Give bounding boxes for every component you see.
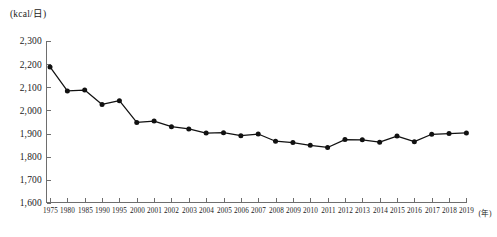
x-axis-tick-label: 2019 [459, 207, 474, 215]
x-axis-tick-label: 1990 [95, 207, 110, 215]
data-point-marker [65, 88, 70, 93]
data-point-marker [204, 131, 209, 136]
x-axis-tick-label: 2009 [286, 207, 301, 215]
x-axis-tick-label: 1980 [60, 207, 75, 215]
x-axis-tick-label: 2004 [199, 207, 214, 215]
x-axis-tick-label: 2015 [390, 207, 405, 215]
x-axis-tick-label: 2011 [321, 207, 336, 215]
data-point-marker [429, 132, 434, 137]
data-point-marker [100, 102, 105, 107]
data-point-marker [377, 140, 382, 145]
x-axis-tick-label: 2001 [147, 207, 162, 215]
x-axis-tick-label: 2013 [355, 207, 370, 215]
data-point-marker [186, 126, 191, 131]
x-axis-tick-label: 2002 [164, 207, 179, 215]
data-point-marker [360, 137, 365, 142]
data-point-marker [325, 145, 330, 150]
y-axis-tick-label: 1,800 [20, 152, 42, 162]
data-point-marker [152, 119, 157, 124]
x-axis-tick-label: 2008 [269, 207, 284, 215]
x-axis-tick-label: 1995 [112, 207, 127, 215]
data-point-marker [412, 139, 417, 144]
x-axis-tick-label: 2006 [234, 207, 249, 215]
y-axis-tick-label: 2,100 [20, 83, 42, 93]
x-axis-tick-label: 2012 [338, 207, 353, 215]
data-point-marker [273, 139, 278, 144]
x-axis-tick-label: 2017 [425, 207, 440, 215]
x-axis-tick-label: 2014 [373, 207, 388, 215]
x-axis-tick-label: 2003 [182, 207, 197, 215]
y-axis-tick-label: 1,600 [20, 198, 42, 208]
y-axis-tick-label: 1,700 [20, 175, 42, 185]
x-axis-unit-label: (年) [478, 207, 491, 218]
data-point-marker [48, 64, 53, 69]
y-axis-tick-label: 2,200 [20, 60, 42, 70]
y-axis-tick-label: 2,000 [20, 106, 42, 116]
x-axis-tick-label: 2000 [130, 207, 145, 215]
data-point-marker [395, 134, 400, 139]
data-point-marker [256, 132, 261, 137]
data-point-marker [134, 120, 139, 125]
y-axis-tick-label: 1,900 [20, 129, 42, 139]
x-axis-tick-label: 1975 [43, 207, 58, 215]
data-point-marker [447, 131, 452, 136]
x-axis-tick-labels: 1975198019851990199520002001200220032004… [43, 207, 474, 215]
x-axis-tick-label: 2018 [442, 207, 457, 215]
x-axis-tick-label: 2016 [407, 207, 422, 215]
y-axis-tick-label: 2,300 [20, 36, 42, 46]
data-point-marker [117, 98, 122, 103]
x-axis-tick-label: 2010 [303, 207, 318, 215]
y-axis-tick-labels: 1,6001,7001,8001,9002,0002,1002,2002,300 [20, 36, 42, 208]
data-point-marker [169, 124, 174, 129]
x-axis-tick-label: 2007 [251, 207, 266, 215]
data-point-marker [238, 133, 243, 138]
x-axis-tick-label: 2005 [217, 207, 232, 215]
data-point-markers [48, 64, 469, 150]
data-point-marker [342, 137, 347, 142]
chart-figure: (kcal/日) 1,6001,7001,8001,9002,0002,1002… [0, 0, 497, 237]
x-axis-tick-label: 1985 [78, 207, 93, 215]
data-point-marker [464, 130, 469, 135]
data-point-marker [308, 143, 313, 148]
data-point-marker [221, 130, 226, 135]
data-point-marker [82, 88, 87, 93]
line-chart-plot: 1,6001,7001,8001,9002,0002,1002,2002,300… [0, 0, 497, 237]
data-point-marker [290, 140, 295, 145]
